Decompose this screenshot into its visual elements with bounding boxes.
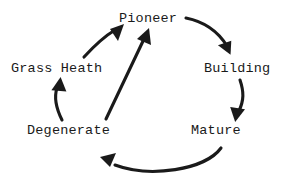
node-label-building: Building: [204, 61, 270, 76]
edge-pioneer-to-building: [186, 18, 235, 58]
edge-grass-to-pioneer-line: [84, 30, 115, 57]
edge-degenerate-to-grass-line: [56, 88, 62, 120]
edge-degenerate-to-pioneer: [106, 28, 151, 119]
edge-mature-to-degenerate: [100, 148, 221, 171]
edge-building-to-mature-arrowhead: [228, 107, 245, 123]
edge-degenerate-to-grass-arrowhead: [51, 76, 67, 91]
node-label-mature: Mature: [191, 123, 241, 138]
edge-grass-to-pioneer: [84, 24, 124, 57]
node-label-grass-heath: Grass Heath: [11, 61, 102, 76]
edge-pioneer-to-building-arrowhead: [218, 41, 235, 58]
cycle-diagram: Pioneer Grass Heath Building Degenerate …: [0, 0, 297, 186]
edge-building-to-mature-line: [239, 80, 243, 111]
edge-degenerate-to-grass: [51, 76, 67, 120]
edge-degenerate-to-pioneer-line: [106, 39, 144, 119]
node-label-pioneer: Pioneer: [119, 11, 177, 26]
cycle-arrows-canvas: [0, 0, 297, 186]
edge-pioneer-to-building-line: [186, 18, 227, 46]
node-label-degenerate: Degenerate: [27, 123, 110, 138]
edge-building-to-mature: [228, 80, 245, 123]
edge-mature-to-degenerate-line: [115, 148, 221, 171]
